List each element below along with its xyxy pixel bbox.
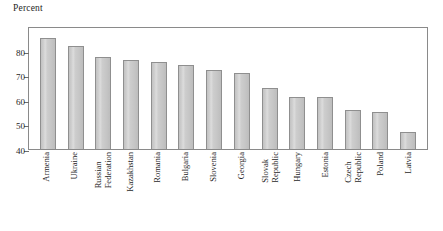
x-axis-label-slot: CzechRepublic — [339, 152, 367, 231]
x-axis-category-label: Ukraine — [70, 152, 80, 179]
bar-slot — [339, 28, 367, 149]
y-axis-tick-label: 80 — [16, 48, 25, 57]
bar — [68, 46, 84, 149]
bar — [345, 110, 361, 149]
x-axis-category-label: CzechRepublic — [344, 152, 363, 183]
x-axis-category-label: Romania — [154, 152, 164, 183]
x-axis-category-label: Slovenia — [209, 152, 219, 182]
bar — [372, 112, 388, 149]
bar — [234, 73, 250, 149]
y-axis-tick-label: 60 — [16, 97, 25, 106]
y-axis-tick-label: 40 — [16, 147, 25, 156]
bar-slot — [256, 28, 284, 149]
x-axis-label-slot: Kazakhstan — [117, 152, 145, 231]
y-axis-unit-label: Percent — [13, 3, 43, 13]
bar — [40, 38, 56, 149]
x-axis-label-slot: Hungary — [284, 152, 312, 231]
x-axis-category-label: Latvia — [404, 152, 414, 174]
bar — [262, 88, 278, 150]
bar — [206, 70, 222, 149]
x-axis-label-slot: Slovenia — [200, 152, 228, 231]
x-axis-label-slot: Ukraine — [61, 152, 89, 231]
x-axis-label-slot: Latvia — [395, 152, 423, 231]
x-axis-category-label: Armenia — [42, 152, 52, 182]
y-axis-tick-label: 70 — [16, 73, 25, 82]
bar-slot — [367, 28, 395, 149]
x-axis-category-label: Bulgaria — [181, 152, 191, 181]
x-axis-label-slot: Estonia — [312, 152, 340, 231]
x-axis-label-slot: Armenia — [33, 152, 61, 231]
x-axis-category-label: Kazakhstan — [126, 152, 136, 192]
bar-slot — [145, 28, 173, 149]
bar-slot — [311, 28, 339, 149]
bar-slot — [89, 28, 117, 149]
x-axis-label-slot: SlovakRepublic — [256, 152, 284, 231]
bar-slot — [394, 28, 422, 149]
x-axis-label-slot: Romania — [144, 152, 172, 231]
x-axis-category-label: SlovakRepublic — [260, 152, 279, 183]
bar-slot — [34, 28, 62, 149]
bar-slot — [283, 28, 311, 149]
plot-area: 4050607080 — [28, 27, 428, 150]
bar — [95, 57, 111, 149]
bar — [400, 132, 416, 149]
x-axis-label-slot: RussianFederation — [89, 152, 117, 231]
x-axis-category-label: Poland — [376, 152, 386, 176]
x-axis-category-label: Hungary — [293, 152, 303, 182]
bar-chart-figure: Percent 4050607080 ArmeniaUkraineRussian… — [0, 0, 443, 231]
x-axis-label-slot: Georgia — [228, 152, 256, 231]
x-axis-category-labels: ArmeniaUkraineRussianFederationKazakhsta… — [28, 152, 428, 231]
x-axis-label-slot: Poland — [367, 152, 395, 231]
bar — [317, 97, 333, 149]
bar-series — [29, 28, 427, 149]
x-axis-category-label: Georgia — [237, 152, 247, 179]
bar-slot — [228, 28, 256, 149]
bar-slot — [173, 28, 201, 149]
y-axis-tick-label: 50 — [16, 122, 25, 131]
bar — [178, 65, 194, 149]
x-axis-category-label: Estonia — [321, 152, 331, 178]
bar — [289, 97, 305, 149]
bar-slot — [62, 28, 90, 149]
x-axis-category-label: RussianFederation — [93, 152, 112, 188]
bar-slot — [200, 28, 228, 149]
x-axis-label-slot: Bulgaria — [172, 152, 200, 231]
bar-slot — [117, 28, 145, 149]
bar — [151, 62, 167, 149]
bar — [123, 60, 139, 149]
